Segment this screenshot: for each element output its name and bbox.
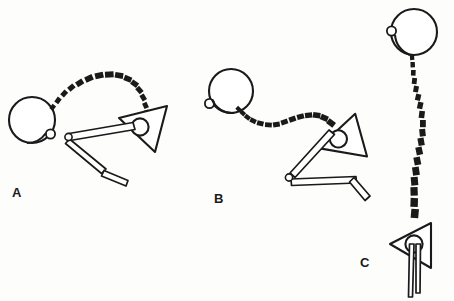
panel-label-a: A: [12, 186, 22, 199]
panel-label-b: B: [214, 192, 224, 205]
figure-canvas: A B C: [0, 0, 454, 301]
figure-illustration: [0, 0, 454, 301]
panel-label-c: C: [360, 256, 370, 269]
circle-body-a: [9, 97, 55, 143]
figure-background: [0, 0, 454, 301]
